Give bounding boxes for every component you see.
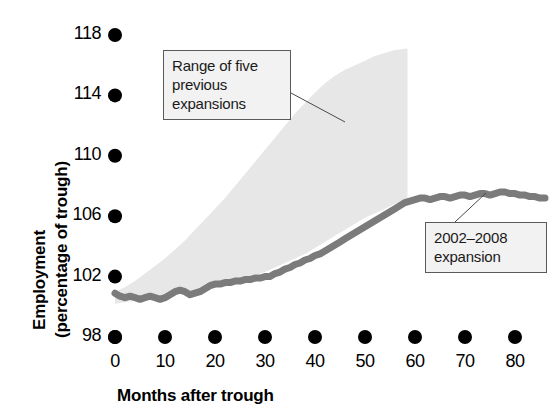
x-axis-title: Months after trough: [117, 386, 274, 406]
x-tick-dot: [108, 330, 122, 344]
x-tick-label-0: 0: [95, 351, 135, 372]
x-tick-dot: [358, 330, 372, 344]
callout-line: Range of five: [172, 56, 283, 75]
x-tick-label-50: 50: [345, 351, 385, 372]
callout-range-of-expansions: Range of fivepreviousexpansions: [163, 50, 291, 120]
callout-line: expansions: [172, 94, 283, 113]
x-axis-tick-dots: [108, 330, 522, 344]
y-tick-dot: [108, 149, 122, 163]
x-tick-dot: [408, 330, 422, 344]
x-tick-label-30: 30: [245, 351, 285, 372]
x-tick-label-70: 70: [445, 351, 485, 372]
x-tick-label-20: 20: [195, 351, 235, 372]
x-tick-label-40: 40: [295, 351, 335, 372]
y-tick-label-114: 114: [59, 83, 101, 104]
y-tick-label-98: 98: [59, 325, 101, 346]
y-tick-dot: [108, 270, 122, 284]
x-tick-dot: [508, 330, 522, 344]
callout-line: expansion: [434, 247, 539, 266]
callout-line: previous: [172, 75, 283, 94]
x-tick-dot: [258, 330, 272, 344]
x-tick-dot: [158, 330, 172, 344]
y-tick-dot: [108, 28, 122, 42]
x-tick-dot: [208, 330, 222, 344]
callout-2002-2008-expansion: 2002–2008expansion: [425, 222, 547, 273]
x-tick-label-60: 60: [395, 351, 435, 372]
y-tick-label-118: 118: [59, 23, 101, 44]
y-tick-label-110: 110: [59, 144, 101, 165]
x-tick-label-80: 80: [495, 351, 535, 372]
y-tick-label-102: 102: [59, 265, 101, 286]
y-axis-title-line1: Employment: [30, 230, 50, 330]
y-tick-dot: [108, 88, 122, 102]
y-tick-dot: [108, 209, 122, 223]
y-tick-label-106: 106: [59, 204, 101, 225]
x-tick-dot: [458, 330, 472, 344]
x-tick-dot: [308, 330, 322, 344]
x-tick-label-10: 10: [145, 351, 185, 372]
y-axis-title-line2: (percentage of trough): [52, 161, 72, 338]
employment-expansion-chart: Employment (percentage of trough) Months…: [0, 0, 560, 418]
callout-line: 2002–2008: [434, 228, 539, 247]
